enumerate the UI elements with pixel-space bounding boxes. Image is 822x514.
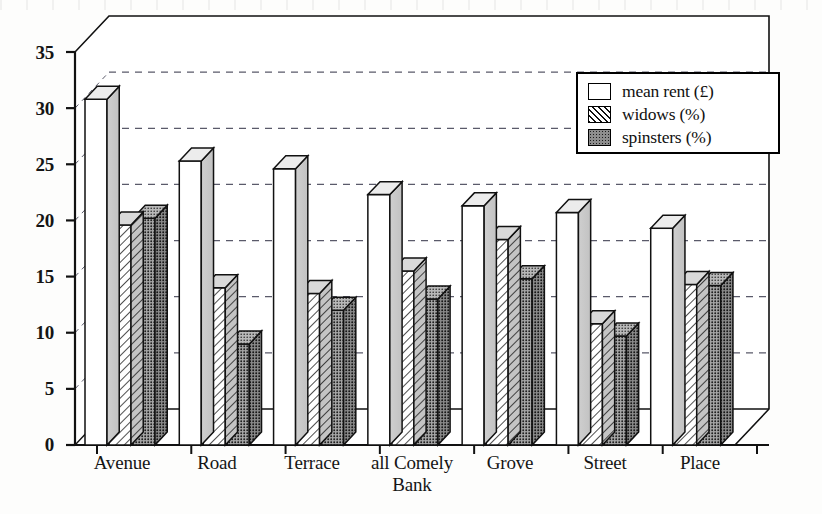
- bar-chart: 35 30 25 20 15 10 5 0 Avenue Road Terrac…: [0, 0, 822, 514]
- y-tick-20: 20: [14, 210, 54, 232]
- legend-item-widows: widows (%): [588, 103, 770, 126]
- legend-swatch-icon: [588, 106, 611, 123]
- y-tick-5: 5: [14, 378, 54, 400]
- legend-item-mean-rent: mean rent (£): [588, 80, 770, 103]
- x-label-place: Place: [640, 452, 760, 474]
- legend-item-spinsters: spinsters (%): [588, 126, 770, 149]
- y-tick-25: 25: [14, 154, 54, 176]
- y-tick-30: 30: [14, 98, 54, 120]
- y-tick-10: 10: [14, 322, 54, 344]
- y-tick-35: 35: [14, 42, 54, 64]
- legend-label: mean rent (£): [622, 81, 714, 102]
- x-label-line: Place: [640, 452, 760, 474]
- legend-label: spinsters (%): [622, 127, 711, 148]
- legend-swatch-icon: [588, 83, 611, 100]
- chart-page: 35 30 25 20 15 10 5 0 Avenue Road Terrac…: [0, 0, 822, 514]
- y-tick-0: 0: [14, 434, 54, 456]
- legend-swatch-icon: [588, 129, 611, 146]
- x-label-line: Bank: [347, 474, 477, 496]
- legend-label: widows (%): [622, 104, 705, 125]
- y-tick-15: 15: [14, 266, 54, 288]
- legend: mean rent (£) widows (%) spinsters (%): [576, 72, 780, 154]
